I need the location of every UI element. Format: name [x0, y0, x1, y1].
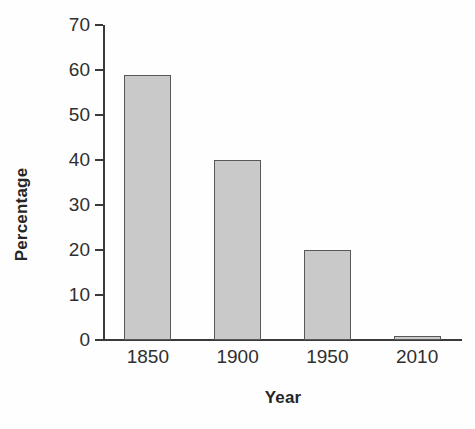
- bar-1950: [304, 250, 351, 340]
- x-tick-label: 1950: [282, 346, 372, 368]
- bar-1900: [214, 160, 261, 340]
- bar-chart: Percentage 010203040506070 1850190019502…: [0, 0, 475, 429]
- y-tick-label: 10: [69, 282, 90, 308]
- y-tick-label: 0: [79, 327, 90, 353]
- x-tick-label: 2010: [372, 346, 462, 368]
- y-tick-mark: [95, 339, 103, 341]
- y-tick-mark: [95, 24, 103, 26]
- y-axis-title: Percentage: [10, 0, 34, 429]
- bar-2010: [394, 336, 441, 341]
- y-tick-mark: [95, 204, 103, 206]
- y-tick-mark: [95, 249, 103, 251]
- y-tick-label: 40: [69, 147, 90, 173]
- x-axis-title: Year: [103, 388, 463, 408]
- y-tick-label: 60: [69, 57, 90, 83]
- x-tick-label: 1850: [103, 346, 193, 368]
- plot-area: [103, 25, 462, 340]
- y-tick-mark: [95, 294, 103, 296]
- y-tick-label: 70: [69, 12, 90, 38]
- y-tick-label: 20: [69, 237, 90, 263]
- y-tick-label: 30: [69, 192, 90, 218]
- y-tick-mark: [95, 159, 103, 161]
- x-tick-label: 1900: [193, 346, 283, 368]
- y-tick-mark: [95, 69, 103, 71]
- bar-1850: [124, 75, 171, 341]
- y-tick-mark: [95, 114, 103, 116]
- y-tick-label: 50: [69, 102, 90, 128]
